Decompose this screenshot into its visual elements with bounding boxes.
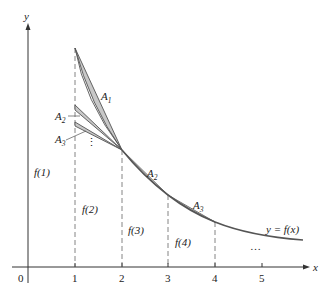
origin-label: 0 xyxy=(18,272,24,284)
diagram-canvas: y x 0 1 2 3 4 5 f(1) f(2) f(3) f(4) A1 A… xyxy=(0,0,333,297)
axes xyxy=(12,23,310,283)
label-f3: f(3) xyxy=(128,224,144,237)
label-f4: f(4) xyxy=(175,236,191,249)
dashed-guides xyxy=(75,48,215,267)
leader-a3 xyxy=(66,131,86,140)
label-a2-left: A2 xyxy=(54,110,66,125)
region-a3-right xyxy=(168,195,215,222)
label-f2: f(2) xyxy=(82,203,98,216)
region-a1 xyxy=(75,48,122,150)
tick-label-5: 5 xyxy=(259,272,265,284)
curve-label: y = f(x) xyxy=(265,223,299,236)
ellipsis-vertical: ⋮ xyxy=(86,136,97,148)
label-a1: A1 xyxy=(100,90,111,105)
tick-label-2: 2 xyxy=(119,272,125,284)
tick-label-1: 1 xyxy=(72,272,78,284)
label-f1: f(1) xyxy=(34,166,50,179)
x-axis-arrow-icon xyxy=(303,265,310,270)
label-a3-left: A3 xyxy=(54,133,66,148)
x-axis-label: x xyxy=(312,261,318,273)
tick-label-4: 4 xyxy=(212,272,218,284)
integral-test-diagram: y x 0 1 2 3 4 5 f(1) f(2) f(3) f(4) A1 A… xyxy=(0,0,333,297)
y-axis-label: y xyxy=(23,10,29,22)
shaded-regions xyxy=(75,48,215,222)
ellipsis-horizontal: … xyxy=(250,240,261,252)
region-a2-right xyxy=(122,150,168,195)
tick-label-3: 3 xyxy=(165,272,171,284)
y-axis-arrow-icon xyxy=(26,23,31,30)
